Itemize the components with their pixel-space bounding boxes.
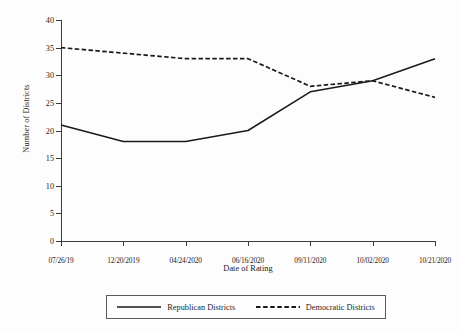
legend-item-democratic[interactable]: Democratic Districts xyxy=(256,303,375,312)
y-tick-label: 10 xyxy=(16,181,54,190)
x-tick-mark xyxy=(435,241,436,246)
series-plot xyxy=(0,0,459,333)
legend-label-republican: Republican Districts xyxy=(167,303,235,312)
legend-label-democratic: Democratic Districts xyxy=(306,303,375,312)
series-line-republican-districts xyxy=(61,59,435,142)
y-tick-mark xyxy=(56,75,61,76)
x-tick-mark xyxy=(248,241,249,246)
y-tick-label: 5 xyxy=(16,209,54,218)
y-tick-label: 25 xyxy=(16,98,54,107)
y-tick-mark xyxy=(56,20,61,21)
y-tick-label: 30 xyxy=(16,71,54,80)
y-tick-mark xyxy=(56,48,61,49)
y-tick-mark xyxy=(56,186,61,187)
y-tick-label: 40 xyxy=(16,16,54,25)
y-tick-mark xyxy=(56,213,61,214)
chart-figure: Number of Districts 0510152025303540 07/… xyxy=(0,0,459,333)
y-tick-label: 35 xyxy=(16,43,54,52)
legend-swatch-solid-icon xyxy=(117,303,161,311)
legend-item-republican[interactable]: Republican Districts xyxy=(117,303,235,312)
x-tick-mark xyxy=(373,241,374,246)
y-tick-label: 15 xyxy=(16,154,54,163)
x-tick-mark xyxy=(61,241,62,246)
x-tick-mark xyxy=(186,241,187,246)
x-tick-mark xyxy=(310,241,311,246)
y-tick-mark xyxy=(56,158,61,159)
y-axis-line xyxy=(61,20,62,242)
chart-legend: Republican Districts Democratic District… xyxy=(106,295,386,319)
y-tick-mark xyxy=(56,103,61,104)
y-axis-title: Number of Districts xyxy=(22,49,31,189)
series-line-democratic-districts xyxy=(61,48,435,98)
y-tick-label: 0 xyxy=(16,237,54,246)
x-tick-mark xyxy=(123,241,124,246)
legend-swatch-dashed-icon xyxy=(256,303,300,311)
y-tick-mark xyxy=(56,131,61,132)
x-axis-title: Date of Rating xyxy=(61,264,435,273)
y-tick-label: 20 xyxy=(16,126,54,135)
